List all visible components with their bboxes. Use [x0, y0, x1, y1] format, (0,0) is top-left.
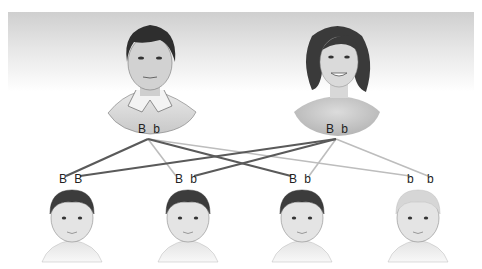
child-body [272, 240, 332, 262]
mother-allele-1: B [326, 122, 334, 136]
child-3-allele-2: b [304, 172, 311, 186]
child-3-alleles: B b [289, 172, 311, 186]
child-body [388, 240, 448, 262]
pedigree-diagram [0, 0, 482, 269]
child-2-allele-2: b [190, 172, 197, 186]
child-4-allele-2: b [427, 172, 434, 186]
child-4-allele-1: b [407, 172, 414, 186]
child-eye [408, 216, 412, 219]
child-eye [62, 216, 66, 219]
father-alleles: B b [138, 122, 160, 136]
child-body [158, 240, 218, 262]
child-eye [78, 216, 82, 219]
mother-portrait [294, 26, 380, 136]
child-1-allele-2: B [74, 172, 82, 186]
father-allele-2: b [153, 122, 160, 136]
line-mother-to-child-4 [336, 139, 428, 176]
child-2-allele-1: B [175, 172, 183, 186]
child-4-alleles: b b [407, 172, 434, 186]
children-portraits [42, 190, 448, 262]
father-portrait [108, 25, 196, 134]
child-3-portrait [272, 190, 332, 262]
child-1-allele-1: B [59, 172, 67, 186]
child-eye [292, 216, 296, 219]
mother-allele-2: b [341, 122, 348, 136]
line-father-to-child-4 [148, 139, 410, 176]
child-body [42, 240, 102, 262]
child-2-portrait [158, 190, 218, 262]
father-face [128, 36, 172, 90]
child-4-portrait [388, 190, 448, 262]
child-eye [178, 216, 182, 219]
child-2-alleles: B b [175, 172, 197, 186]
child-1-alleles: B B [59, 172, 82, 186]
child-eye [308, 216, 312, 219]
mother-alleles: B b [326, 122, 348, 136]
child-1-portrait [42, 190, 102, 262]
child-3-allele-1: B [289, 172, 297, 186]
father-allele-1: B [138, 122, 146, 136]
inheritance-lines [66, 139, 428, 176]
child-eye [424, 216, 428, 219]
line-father-to-child-1 [66, 139, 148, 176]
child-eye [194, 216, 198, 219]
line-mother-to-child-1 [80, 139, 336, 176]
